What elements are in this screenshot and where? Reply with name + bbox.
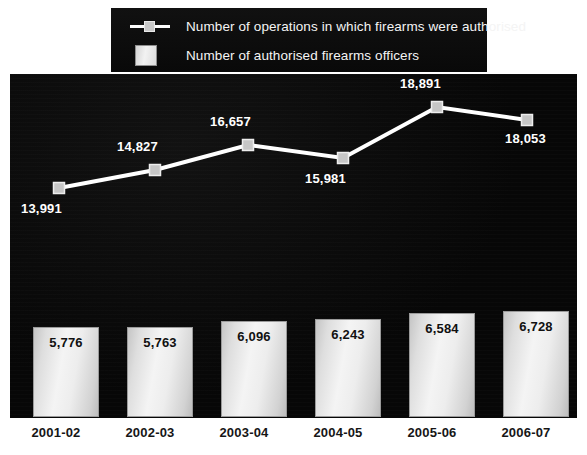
plot-area: 5,776 5,763 6,096 6,243 6,584 6,728 <box>10 74 577 443</box>
point-label-2006-07: 18,053 <box>505 131 546 146</box>
point-label-2002-03: 14,827 <box>117 139 158 154</box>
legend-label-operations: Number of operations in which firearms w… <box>186 19 526 34</box>
bar-value-label: 5,776 <box>34 335 98 350</box>
category-label-2006-07: 2006-07 <box>478 425 574 440</box>
point-label-2001-02: 13,991 <box>21 201 62 216</box>
category-label-2003-04: 2003-04 <box>196 425 292 440</box>
bar-2005-06: 6,584 <box>409 313 475 417</box>
bar-2003-04: 6,096 <box>221 321 287 417</box>
point-label-2004-05: 15,981 <box>305 171 346 186</box>
bar-value-label: 6,584 <box>410 321 474 336</box>
bar-value-label: 5,763 <box>128 335 192 350</box>
bar-value-label: 6,096 <box>222 329 286 344</box>
bar-2001-02: 5,776 <box>33 327 99 417</box>
bar-swatch-icon <box>128 45 172 65</box>
point-label-2005-06: 18,891 <box>400 76 441 91</box>
bar-2004-05: 6,243 <box>315 319 381 417</box>
legend-item-operations: Number of operations in which firearms w… <box>128 15 526 37</box>
bar-2006-07: 6,728 <box>503 311 569 417</box>
category-label-2005-06: 2005-06 <box>384 425 480 440</box>
point-label-2003-04: 16,657 <box>210 114 251 129</box>
chart-legend: Number of operations in which firearms w… <box>111 8 487 72</box>
bar-value-label: 6,728 <box>504 319 568 334</box>
category-label-2004-05: 2004-05 <box>290 425 386 440</box>
category-label-2002-03: 2002-03 <box>102 425 198 440</box>
category-axis: 2001-02 2002-03 2003-04 2004-05 2005-06 … <box>0 418 587 455</box>
bar-value-label: 6,243 <box>316 327 380 342</box>
bar-2002-03: 5,763 <box>127 327 193 417</box>
chart-container: 5,776 5,763 6,096 6,243 6,584 6,728 <box>0 0 587 455</box>
legend-item-officers: Number of authorised firearms officers <box>128 44 419 66</box>
legend-label-officers: Number of authorised firearms officers <box>186 48 419 63</box>
category-label-2001-02: 2001-02 <box>8 425 104 440</box>
line-marker-icon <box>128 16 172 36</box>
